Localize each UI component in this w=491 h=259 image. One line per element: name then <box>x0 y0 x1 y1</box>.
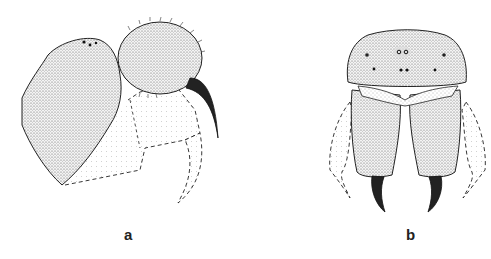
panel-label-a: a <box>124 226 132 243</box>
panel-a <box>0 0 245 259</box>
panel-label-b: b <box>406 226 415 243</box>
panel-b <box>245 0 491 259</box>
